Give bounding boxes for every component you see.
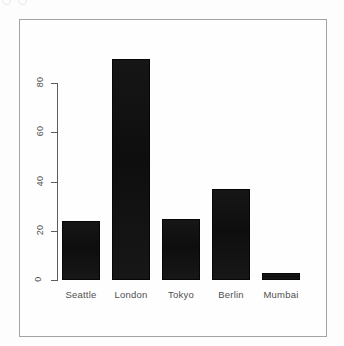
artifact-mark: [2, 0, 11, 5]
cropped-text-artifact: [2, 0, 28, 6]
artifact-mark: [18, 0, 27, 5]
barplot-figure: 020406080SeattleLondonTokyoBerlinMumbai: [0, 0, 344, 346]
chart-frame: [19, 19, 327, 337]
